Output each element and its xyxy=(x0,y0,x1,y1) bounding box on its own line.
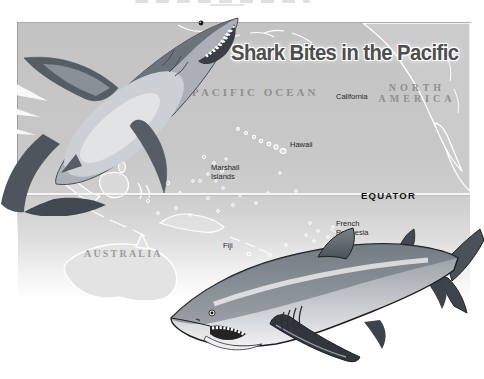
australia-label: AUSTRALIA xyxy=(84,250,163,259)
speed-lines-icon xyxy=(0,74,48,135)
swimming-shark-illustration xyxy=(166,226,484,378)
cropped-text-artifact xyxy=(135,0,310,3)
page-title: Shark Bites in the Pacific xyxy=(231,40,461,66)
diving-shark-illustration xyxy=(0,6,243,216)
page: Shark Bites in the Pacific PACIFIC OCEAN… xyxy=(0,0,484,379)
equator-label: EQUATOR xyxy=(361,192,416,201)
hawaii-label: Hawaii xyxy=(290,141,313,150)
california-label: California xyxy=(336,93,368,102)
north-america-label: NORTH AMERICA xyxy=(371,83,463,104)
